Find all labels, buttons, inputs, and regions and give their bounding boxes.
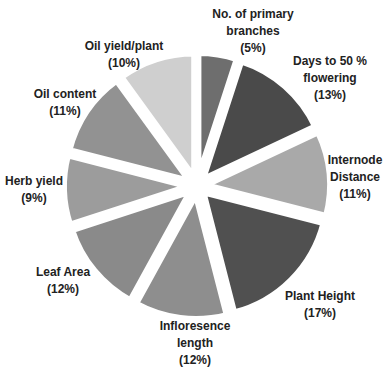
label-plant-height: Plant Height(17%) <box>285 288 355 322</box>
label-oil-content: Oil content(11%) <box>34 86 97 120</box>
label-oil-yield-plant: Oil yield/plant(10%) <box>85 38 164 72</box>
label-primary-branches: No. of primarybranches(5%) <box>212 6 293 57</box>
label-infloresence-length: Infloresencelength(12%) <box>160 318 231 369</box>
label-herb-yield: Herb yield(9%) <box>5 173 63 207</box>
label-internode-distance: InternodeDistance(11%) <box>328 152 383 203</box>
label-days-flowering: Days to 50 %flowering(13%) <box>293 53 367 104</box>
pie-chart: No. of primarybranches(5%) Days to 50 %f… <box>0 0 385 369</box>
label-leaf-area: Leaf Area(12%) <box>36 264 90 298</box>
